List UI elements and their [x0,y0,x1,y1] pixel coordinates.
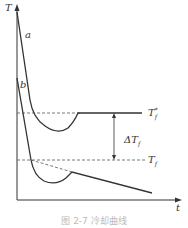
figure-caption: 图 2-7 冷却曲线 [0,214,188,227]
curve-a-label: a [25,30,31,40]
curve-b-label: b [20,80,26,90]
equilibrium-temp-label: T*f [148,107,157,120]
y-axis-arrow [15,4,20,11]
subscript: f [155,113,157,120]
t-symbol: T [148,107,155,118]
superscript: * [155,106,158,113]
subscript: f [155,160,157,167]
delta-arrow-bottom [112,155,116,160]
curve-a [17,12,142,131]
delta-arrow-top [112,113,116,118]
curve-b-extrapolation [31,160,72,172]
delta-t-label: ΔTf [124,135,140,147]
x-axis-label: t [176,203,180,213]
t-symbol: T [148,154,155,165]
subscript: f [138,140,140,147]
y-axis-label: T [5,3,12,13]
delta-symbol: ΔT [124,134,138,145]
actual-temp-label: Tf [148,155,157,167]
